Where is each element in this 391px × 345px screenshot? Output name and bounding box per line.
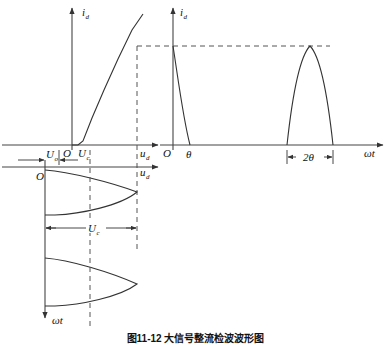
label-id-right-subscript: d [184, 13, 188, 21]
label-uo-offset-subscript: o [54, 155, 58, 163]
label-two-theta: 2θ [303, 151, 315, 163]
pulse-first-half [173, 46, 190, 145]
label-ud-axis-bottom: ud [140, 166, 150, 181]
waveform-cycle-1 [45, 170, 137, 215]
label-omegat-axis-bottom: ωt [52, 314, 64, 326]
label-uc-threshold: Uc [78, 147, 90, 162]
label-ud-axis-bottom-subscript: d [146, 173, 150, 181]
label-ud-axis-top: ud [140, 147, 150, 162]
waveform-diagram: id O Uc ud [0, 0, 391, 345]
figure-caption: 图11-12 大信号整流检波波形图 [0, 330, 391, 345]
label-origin-topleft: O [63, 147, 71, 159]
figure-root: id O Uc ud [0, 0, 391, 345]
panel-input-voltage: O Uo ud Uc ωt [2, 148, 158, 330]
label-origin-topright: O [163, 147, 171, 159]
transfer-curve [72, 14, 143, 145]
label-uo-offset: Uo [46, 148, 58, 163]
pulse-second-full [287, 46, 333, 145]
label-ud-axis-top-subscript: d [146, 154, 150, 162]
panel-current-pulses: id O θ 2θ ωt [137, 6, 383, 164]
label-id-left: id [82, 6, 90, 21]
panel-transfer-characteristic: id O Uc ud [2, 6, 158, 252]
label-omegat-axis-top: ωt [364, 147, 376, 159]
waveform-cycle-2 [45, 258, 137, 306]
label-id-right: id [180, 6, 188, 21]
label-id-left-subscript: d [86, 13, 90, 21]
label-theta-tick: θ [186, 148, 192, 160]
label-origin-bottom: O [36, 170, 44, 182]
